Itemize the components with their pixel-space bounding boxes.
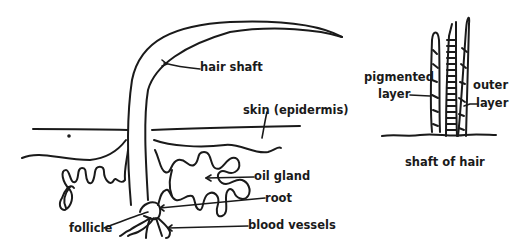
label-pigmented-line2: layer (378, 89, 410, 101)
label-oil-gland: oil gland (254, 171, 310, 183)
hair-anatomy-diagram: hair shaft skin (epidermis) oil gland ro… (0, 0, 531, 245)
label-hair-shaft: hair shaft (200, 62, 263, 74)
label-outer-line1: outer (473, 80, 508, 92)
label-skin-epidermis: skin (epidermis) (243, 105, 349, 117)
label-root: root (265, 193, 292, 205)
label-outer-line2: layer (476, 98, 508, 110)
label-pigmented-line1: pigmented (364, 72, 434, 84)
label-blood-vessels: blood vessels (248, 220, 336, 232)
label-follicle: follicle (69, 223, 112, 235)
hair-diagram-drawing (0, 0, 531, 245)
skin-surface-drawing (22, 126, 300, 160)
caption-shaft-of-hair: shaft of hair (405, 157, 485, 169)
